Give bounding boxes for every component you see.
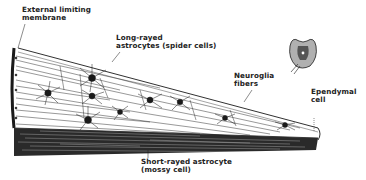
label-external-limiting-membrane: External limiting membrane [22, 6, 91, 23]
label-long-rayed-astrocytes: Long-rayed astrocytes (spider cells) [116, 34, 216, 51]
label-neuroglia-fibers: Neuroglia fibers [234, 72, 274, 89]
external-limiting-membrane [12, 48, 14, 128]
label-ependymal-cell: Ependymal cell [311, 88, 357, 105]
neuroglia-illustration: External limiting membrane Long-rayed as… [0, 0, 366, 180]
spinal-cord-inset [290, 39, 317, 74]
label-short-rayed-astrocyte: Short-rayed astrocyte (mossy cell) [141, 158, 232, 175]
